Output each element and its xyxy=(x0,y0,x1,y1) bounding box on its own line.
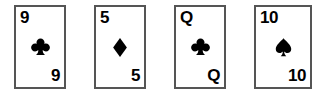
playing-card[interactable]: 10 10 xyxy=(254,5,312,89)
card-rank-bottom-right: Q xyxy=(207,66,220,86)
card-rank-top-left: 5 xyxy=(100,8,109,28)
spade-icon xyxy=(272,36,294,58)
playing-card-row: 9 9 5 5 Q Q 10 10 xyxy=(0,0,328,96)
card-rank-top-left: 10 xyxy=(260,8,278,28)
card-rank-bottom-right: 5 xyxy=(131,66,140,86)
diamond-icon xyxy=(109,36,131,58)
card-rank-bottom-right: 10 xyxy=(288,66,306,86)
card-rank-bottom-right: 9 xyxy=(51,66,60,86)
card-rank-top-left: Q xyxy=(180,8,193,28)
playing-card[interactable]: Q Q xyxy=(174,5,226,89)
playing-card[interactable]: 9 9 xyxy=(14,5,66,89)
playing-card[interactable]: 5 5 xyxy=(94,5,146,89)
club-icon xyxy=(189,36,211,58)
club-icon xyxy=(29,36,51,58)
card-rank-top-left: 9 xyxy=(20,8,29,28)
